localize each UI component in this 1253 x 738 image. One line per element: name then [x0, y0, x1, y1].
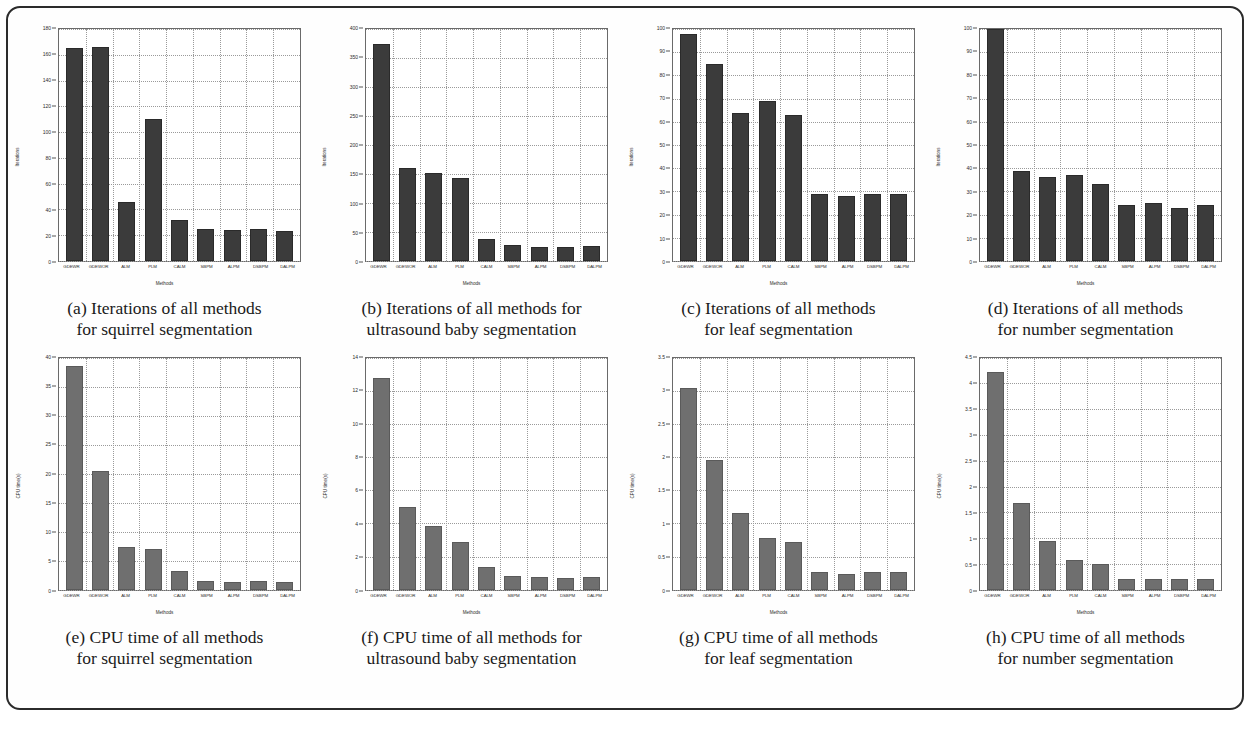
y-tick-label: 400	[350, 25, 358, 31]
x-tick-label: DSBPM	[1170, 593, 1193, 598]
y-tick-label: 0	[662, 588, 665, 594]
x-tick-label: ALM	[728, 264, 751, 269]
bar-series	[980, 358, 1221, 590]
y-tick-label: 0	[48, 588, 51, 594]
bar-DSBPM	[557, 578, 574, 590]
y-tick-mark	[973, 356, 977, 357]
y-tick-mark	[52, 385, 56, 386]
bar-ALM	[118, 547, 135, 589]
y-tick-label: 0.5	[658, 554, 665, 560]
y-tick-mark	[666, 238, 670, 239]
bar-PLM	[145, 549, 162, 590]
y-tick-label: 2	[662, 454, 665, 460]
bar-ALM	[732, 113, 749, 261]
x-tick-label: PLM	[755, 593, 778, 598]
y-tick-label: 0	[355, 588, 358, 594]
y-tick-mark	[359, 28, 363, 29]
bar-ALM	[425, 173, 442, 261]
y-tick-mark	[666, 28, 670, 29]
y-tick-mark	[973, 382, 977, 383]
bar-DSBPM	[250, 229, 267, 261]
bar-GDEWR	[987, 372, 1004, 590]
bar-PLM	[452, 178, 469, 261]
bar-ALM	[1039, 541, 1056, 590]
x-axis-ticks: GDEWRGDEWORALMPLMCALMSBPMALPMDSBPMDALPM	[365, 593, 608, 605]
y-tick-mark	[973, 460, 977, 461]
y-tick-label: 90	[659, 48, 665, 54]
bar-GDEWOR	[1013, 503, 1030, 590]
gridline-horizontal	[366, 590, 607, 591]
y-tick-mark	[666, 557, 670, 558]
x-tick-label: DSBPM	[556, 593, 579, 598]
y-tick-mark	[973, 215, 977, 216]
y-tick-label: 10	[45, 529, 51, 535]
x-tick-label: SBPM	[502, 593, 525, 598]
y-tick-label: 140	[43, 77, 51, 83]
y-tick-label: 50	[966, 142, 972, 148]
bar-GDEWR	[987, 29, 1004, 261]
y-tick-label: 80	[45, 155, 51, 161]
x-tick-label: PLM	[141, 264, 164, 269]
y-axis-ticks: 020406080100120140160180	[12, 28, 56, 262]
x-tick-label: ALM	[421, 264, 444, 269]
x-tick-label: GDEWOR	[394, 264, 417, 269]
x-tick-label: DALPM	[583, 593, 606, 598]
x-tick-label: PLM	[1062, 264, 1085, 269]
x-tick-label: ALPM	[222, 264, 245, 269]
panel-c: Iterations0102030405060708090100GDEWRGDE…	[626, 12, 931, 341]
bar-GDEWR	[66, 48, 83, 261]
caption-line-2: ultrasound baby segmentation	[328, 319, 615, 340]
y-tick-mark	[973, 538, 977, 539]
bar-GDEWR	[66, 366, 83, 589]
x-tick-label: CALM	[475, 264, 498, 269]
panel-caption-e: (e) CPU time of all methodsfor squirrel …	[21, 627, 308, 670]
bar-PLM	[145, 119, 162, 261]
x-tick-label: DSBPM	[863, 264, 886, 269]
panel-d: Iterations0102030405060708090100GDEWRGDE…	[933, 12, 1238, 341]
bar-CALM	[1092, 564, 1109, 590]
bar-SBPM	[811, 572, 828, 589]
bar-DSBPM	[1171, 208, 1188, 261]
y-tick-mark	[52, 132, 56, 133]
y-tick-label: 25	[45, 441, 51, 447]
panel-caption-h: (h) CPU time of all methodsfor number se…	[942, 627, 1229, 670]
x-tick-label: GDEWR	[674, 264, 697, 269]
panel-caption-g: (g) CPU time of all methodsfor leaf segm…	[635, 627, 922, 670]
x-tick-label: SBPM	[195, 264, 218, 269]
x-axis-title: Methods	[626, 610, 931, 615]
y-tick-mark	[973, 191, 977, 192]
y-axis-ticks: 02468101214	[319, 357, 363, 591]
x-axis-title: Methods	[933, 281, 1238, 286]
x-tick-label: ALPM	[1143, 264, 1166, 269]
x-tick-label: CALM	[475, 593, 498, 598]
y-tick-mark	[666, 423, 670, 424]
bar-GDEWOR	[706, 64, 723, 261]
x-tick-label: GDEWR	[981, 593, 1004, 598]
y-tick-label: 5	[48, 558, 51, 564]
y-tick-mark	[973, 28, 977, 29]
bar-ALM	[1039, 177, 1056, 261]
y-tick-label: 20	[659, 212, 665, 218]
x-tick-label: ALPM	[1143, 593, 1166, 598]
bar-GDEWR	[373, 378, 390, 590]
y-tick-mark	[359, 57, 363, 58]
y-tick-mark	[666, 390, 670, 391]
y-tick-label: 3.5	[965, 406, 972, 412]
bar-GDEWR	[680, 388, 697, 590]
bar-SBPM	[1118, 205, 1135, 261]
y-tick-mark	[973, 74, 977, 75]
y-tick-label: 4.5	[965, 354, 972, 360]
panel-caption-f: (f) CPU time of all methods forultrasoun…	[328, 627, 615, 670]
bar-SBPM	[197, 581, 214, 590]
x-tick-label: SBPM	[1116, 264, 1139, 269]
bar-GDEWOR	[92, 471, 109, 590]
bar-series	[673, 358, 914, 590]
x-tick-label: PLM	[448, 593, 471, 598]
y-tick-mark	[973, 408, 977, 409]
y-tick-label: 100	[657, 25, 665, 31]
x-tick-label: DSBPM	[1170, 264, 1193, 269]
x-tick-label: DALPM	[1197, 264, 1220, 269]
bar-series	[59, 29, 300, 261]
x-tick-label: GDEWOR	[1008, 593, 1031, 598]
bar-GDEWOR	[399, 507, 416, 590]
